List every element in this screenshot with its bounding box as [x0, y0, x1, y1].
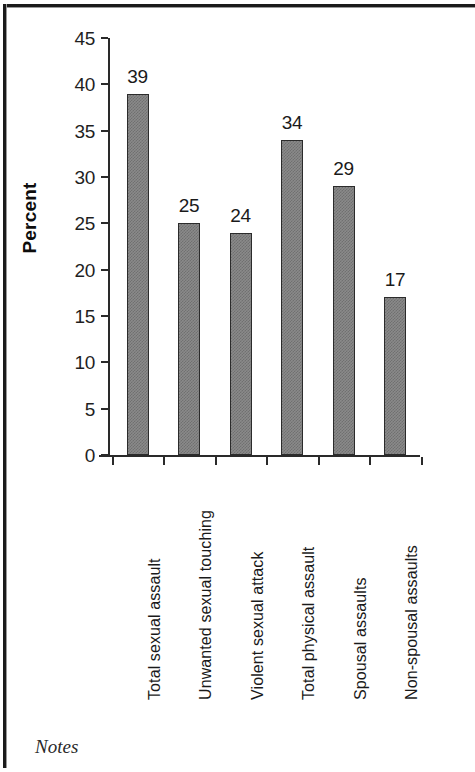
- y-axis-tick-label: 25: [51, 214, 95, 233]
- x-axis-tick: [163, 457, 165, 465]
- x-axis-line: [99, 455, 420, 457]
- bar: [281, 140, 303, 455]
- x-axis-category-label: Unwanted sexual touching: [197, 510, 215, 700]
- bar: [127, 94, 149, 455]
- y-axis-tick-label: 45: [51, 29, 95, 48]
- bar: [333, 186, 355, 455]
- figure-page: 454035302520151050Percent39Total sexual …: [0, 0, 475, 772]
- y-axis-tick-label: 40: [51, 75, 95, 94]
- y-axis-tick: [101, 408, 108, 410]
- bar: [230, 233, 252, 455]
- y-axis-tick: [101, 37, 108, 39]
- y-axis-tick-label: 15: [51, 307, 95, 326]
- y-axis-tick-label: 30: [51, 168, 95, 187]
- x-axis-tick: [421, 457, 423, 465]
- y-axis-tick: [101, 130, 108, 132]
- x-axis-tick: [266, 457, 268, 465]
- y-axis-tick: [101, 269, 108, 271]
- bar-value-label: 29: [314, 159, 374, 178]
- x-axis-tick: [369, 457, 371, 465]
- x-axis-category-label: Total physical assault: [300, 547, 318, 700]
- bar: [178, 223, 200, 455]
- bar-value-label: 24: [211, 206, 271, 225]
- bar-value-label: 34: [262, 113, 322, 132]
- notes-heading: Notes: [35, 736, 78, 758]
- y-axis-tick-label: 35: [51, 122, 95, 141]
- y-axis-line: [108, 38, 110, 457]
- bar-value-label: 17: [365, 270, 425, 289]
- x-axis-tick: [215, 457, 217, 465]
- y-axis-tick-label: 0: [51, 446, 95, 465]
- x-axis-category-label: Total sexual assault: [146, 558, 164, 700]
- y-axis-tick: [101, 454, 108, 456]
- y-axis-tick-label: 5: [51, 400, 95, 419]
- x-axis-category-label: Spousal assaults: [352, 577, 370, 700]
- bar-value-label: 39: [108, 67, 168, 86]
- y-axis-tick: [101, 176, 108, 178]
- x-axis-tick: [318, 457, 320, 465]
- y-axis-title: Percent: [19, 168, 41, 268]
- y-axis-tick-label: 10: [51, 353, 95, 372]
- y-axis-tick: [101, 361, 108, 363]
- y-axis-tick: [101, 315, 108, 317]
- bar-chart: 454035302520151050Percent39Total sexual …: [0, 0, 475, 700]
- bar: [384, 297, 406, 455]
- y-axis-tick: [101, 222, 108, 224]
- x-axis-tick: [112, 457, 114, 465]
- x-axis-category-label: Non-spousal assaults: [403, 545, 421, 700]
- x-axis-category-label: Violent sexual attack: [249, 551, 267, 700]
- y-axis-tick-label: 20: [51, 261, 95, 280]
